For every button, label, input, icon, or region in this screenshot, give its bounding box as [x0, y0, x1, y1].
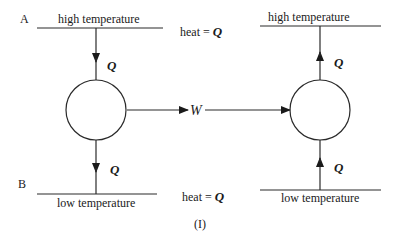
- right-q-out-label: Q: [334, 55, 344, 70]
- right-q-in-label: Q: [334, 160, 344, 175]
- work-label: W: [190, 103, 203, 118]
- right-high-temperature-label: high temperature: [268, 10, 350, 24]
- left-low-temperature-label: low temperature: [57, 196, 135, 210]
- right-low-temperature-label: low temperature: [281, 191, 359, 205]
- work-transfer: W: [127, 103, 290, 118]
- left-q-out-label: Q: [110, 162, 120, 177]
- left-engine: A high temperature Q Q B low temperature: [18, 12, 163, 210]
- heat-bottom-label: heat = Q: [182, 189, 225, 204]
- label-b: B: [18, 177, 26, 191]
- right-engine: high temperature Q Q low temperature: [260, 10, 381, 205]
- heat-top-label: heat = Q: [180, 24, 223, 39]
- heat-engine-diagram: A high temperature Q Q B low temperature…: [0, 0, 401, 248]
- figure-caption: (I): [194, 217, 206, 231]
- right-engine-circle: [290, 80, 350, 140]
- left-high-temperature-label: high temperature: [58, 12, 140, 26]
- label-a: A: [20, 12, 29, 26]
- left-q-in-label: Q: [107, 58, 117, 73]
- left-engine-circle: [66, 80, 126, 140]
